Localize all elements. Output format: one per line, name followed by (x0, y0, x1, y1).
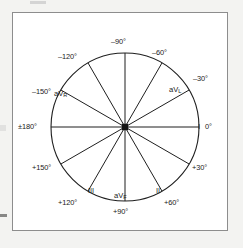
lead-label-I: I (198, 123, 200, 130)
lead-label-aVR-subscript: R (63, 92, 67, 98)
origin-dot (122, 124, 128, 130)
angle-label-plus-90: +90° (113, 208, 128, 215)
lead-label-III: III (88, 187, 94, 194)
scan-artifact-left-upper (0, 125, 6, 131)
angle-label-pm-180: ±180° (18, 123, 37, 130)
angle-label-plus-150: +150° (32, 164, 51, 171)
angle-label-plus-120: +120° (58, 199, 77, 206)
angle-label-0: 0° (205, 123, 212, 130)
lead-label-aVR-base: aV (54, 89, 63, 98)
scan-artifact-left (0, 214, 7, 217)
angle-label-minus-60: –60° (152, 49, 167, 56)
angle-label-minus-90: –90° (111, 38, 126, 45)
lead-label-II: II (156, 187, 160, 194)
lead-label-aVF: aVF (114, 192, 127, 200)
angle-label-plus-60: +60° (164, 199, 179, 206)
angle-label-plus-30: +30° (192, 164, 207, 171)
angle-label-minus-150: –150° (32, 88, 51, 95)
lead-label-aVR: aVR (54, 90, 67, 98)
lead-label-aVL-subscript: L (178, 88, 181, 94)
lead-label-aVF-base: aV (114, 191, 123, 200)
angle-label-minus-30: –30° (193, 75, 208, 82)
lead-label-aVL: aVL (169, 86, 181, 94)
angle-label-minus-120: –120° (58, 53, 77, 60)
lead-label-aVL-base: aV (169, 85, 178, 94)
lead-label-aVF-subscript: F (123, 194, 126, 200)
hexaxial-diagram: –90° –120° –150° ±180° +150° +120° +90° … (12, 12, 228, 231)
scan-artifact-top (30, 1, 46, 4)
